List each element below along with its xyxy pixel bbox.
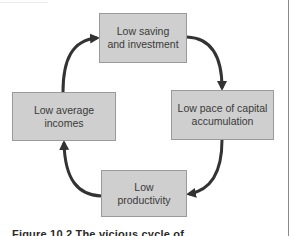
node-label-line2: incomes [34, 117, 94, 130]
node-label-line1: Low [117, 181, 170, 194]
node-label-line1: Low saving [107, 25, 178, 38]
node-low-capital-accumulation: Low pace of capital accumulation [171, 90, 274, 140]
arrow-top-to-right [187, 37, 222, 88]
node-label-line2: productivity [117, 194, 170, 207]
node-label-line2: accumulation [178, 115, 268, 128]
node-label-line2: and investment [107, 38, 178, 51]
node-label-line1: Low pace of capital [178, 102, 268, 115]
node-label-line1: Low average [34, 104, 94, 117]
figure-caption: Figure 10.2 The vicious cycle of [12, 228, 184, 236]
node-low-productivity: Low productivity [101, 170, 187, 217]
arrow-bottom-to-left [64, 143, 101, 196]
arrow-right-to-bottom [189, 140, 222, 194]
node-low-saving-investment: Low saving and investment [99, 13, 187, 63]
node-low-average-incomes: Low average incomes [12, 92, 116, 141]
arrow-left-to-top [63, 38, 97, 92]
